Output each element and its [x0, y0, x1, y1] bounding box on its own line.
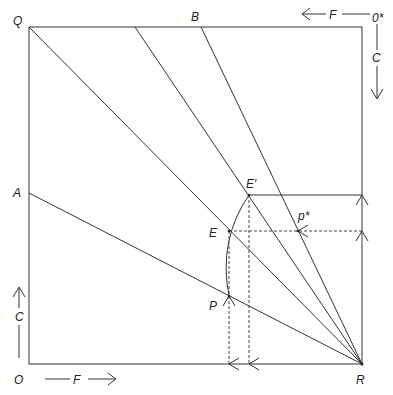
point-R [361, 363, 364, 366]
label-p-star: p* [297, 209, 310, 223]
point-E [228, 230, 231, 233]
label-P: P [209, 299, 217, 313]
label-E-prime: E′ [246, 177, 257, 191]
label-O-star: 0* [372, 11, 384, 25]
label-B: B [191, 10, 199, 24]
label-F-bottom: F [73, 373, 81, 387]
label-Q: Q [13, 14, 22, 28]
ray-R-A [29, 193, 362, 364]
label-R: R [356, 373, 365, 387]
label-E: E [209, 226, 218, 240]
point-P [228, 295, 231, 298]
label-C-right: C [372, 51, 381, 65]
point-p-star [297, 230, 300, 233]
point-E-prime [248, 194, 251, 197]
label-F-top: F [329, 8, 337, 22]
diagram-canvas: Q B F 0* C A E′ E p* P C O F R [0, 0, 393, 395]
label-A: A [12, 186, 21, 200]
label-O: O [14, 373, 23, 387]
label-C-left: C [15, 310, 24, 324]
